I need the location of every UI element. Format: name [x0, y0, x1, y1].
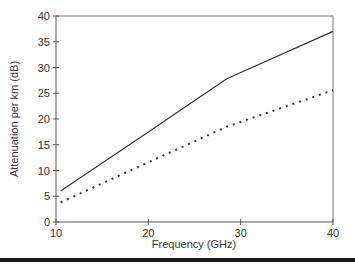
y-tick-label: 20: [38, 113, 50, 125]
bottom-rule: [0, 258, 355, 262]
plot-frame: [56, 16, 333, 222]
series-line-solid: [61, 31, 333, 191]
y-tick-label: 5: [44, 190, 50, 202]
series-line-dotted: [61, 90, 333, 202]
x-tick-label: 30: [235, 227, 247, 239]
chart: 0510152025303540 10203040 Frequency (GHz…: [0, 0, 355, 269]
y-tick-label: 35: [38, 36, 50, 48]
x-axis-title: Frequency (GHz): [152, 238, 236, 250]
y-tick-label: 25: [38, 87, 50, 99]
x-tick-label: 10: [50, 227, 62, 239]
y-tick-label: 10: [38, 165, 50, 177]
x-tick-label: 40: [327, 227, 339, 239]
y-axis-title: Attenuation per km (dB): [8, 61, 20, 177]
y-tick-label: 30: [38, 62, 50, 74]
series-group: [61, 31, 333, 202]
y-tick-label: 15: [38, 139, 50, 151]
y-tick-label: 40: [38, 10, 50, 22]
